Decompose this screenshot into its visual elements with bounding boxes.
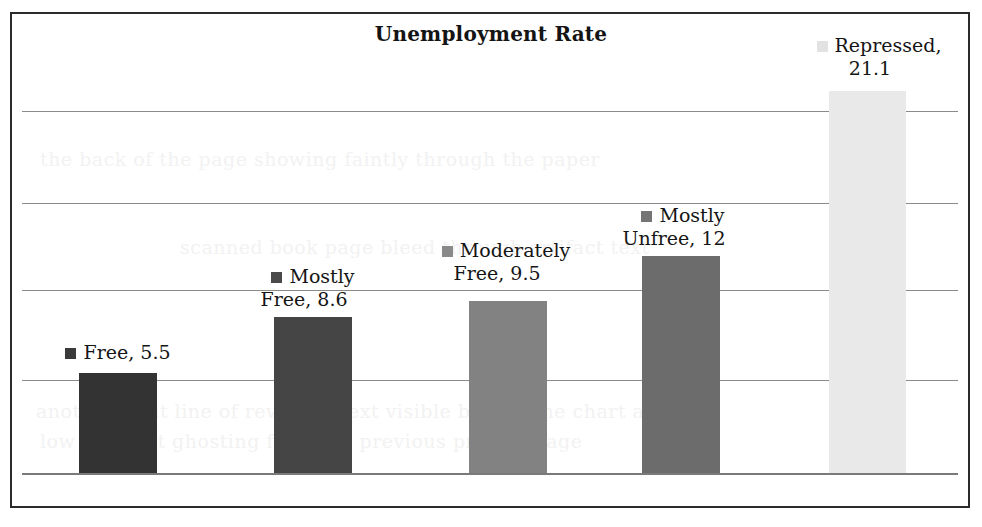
chart-screenshot: the back of the page showing faintly thr…: [0, 0, 982, 527]
data-label-text-line2: Unfree, 12: [570, 227, 778, 250]
data-label-mostly-unfree: Mostly Unfree, 12: [588, 204, 778, 250]
data-label-mostly-free: Mostly Free, 8.6: [223, 265, 403, 311]
legend-marker-icon: [442, 246, 453, 257]
gridline-20: [22, 111, 958, 112]
legend-marker-icon: [65, 348, 76, 359]
legend-marker-icon: [641, 211, 652, 222]
data-label-text: Moderately: [460, 239, 570, 261]
data-label-text-line2: 21.1: [766, 57, 974, 80]
bar-mostly-unfree[interactable]: [642, 256, 720, 473]
data-label-repressed: Repressed, 21.1: [784, 34, 974, 80]
bar-free[interactable]: [79, 373, 157, 473]
bar-mostly-free[interactable]: [274, 317, 352, 473]
bar-repressed[interactable]: [829, 91, 906, 473]
data-label-text-line2: Free, 9.5: [388, 262, 606, 285]
data-label-text-line2: Free, 8.6: [205, 288, 403, 311]
data-label-text: Mostly: [659, 204, 724, 226]
plot-area: Free, 5.5 Mostly Free, 8.6 Moderately Fr…: [22, 12, 958, 527]
gridline-10: [22, 290, 958, 291]
bar-moderately-free[interactable]: [469, 301, 547, 473]
data-label-text: Free, 5.5: [83, 341, 170, 363]
gridline-15: [22, 203, 958, 204]
data-label-text: Mostly: [289, 265, 354, 287]
data-label-text: Repressed,: [835, 34, 942, 56]
category-axis-line: [22, 473, 958, 475]
data-label-free: Free, 5.5: [28, 341, 208, 364]
legend-marker-icon: [271, 272, 282, 283]
legend-marker-icon: [817, 41, 828, 52]
